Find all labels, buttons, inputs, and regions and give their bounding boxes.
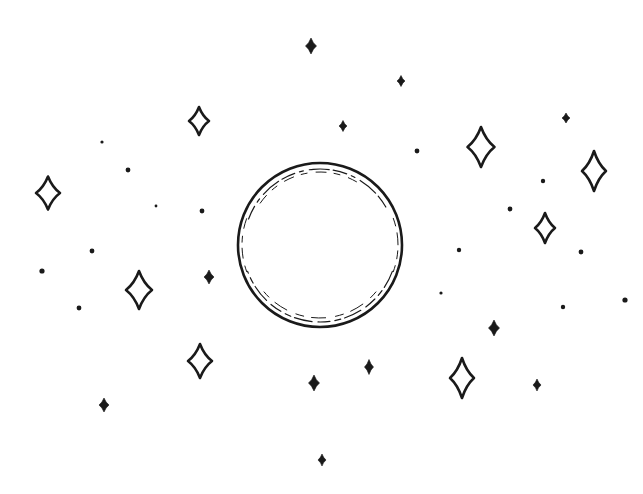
star-dot	[508, 207, 513, 212]
star-dot	[39, 268, 44, 273]
star-dot	[561, 305, 565, 309]
star-dot	[155, 205, 158, 208]
star-dot	[541, 179, 545, 183]
sparkle-bubble-illustration	[0, 0, 643, 494]
star-dot	[100, 140, 103, 143]
star-dot	[579, 250, 584, 255]
star-dot	[457, 248, 461, 252]
star-dot	[622, 297, 627, 302]
background	[0, 0, 643, 494]
star-dot	[126, 168, 131, 173]
star-dot	[439, 291, 442, 294]
star-dot	[200, 209, 205, 214]
star-dot	[415, 149, 420, 154]
star-dot	[90, 249, 95, 254]
star-dot	[77, 306, 82, 311]
